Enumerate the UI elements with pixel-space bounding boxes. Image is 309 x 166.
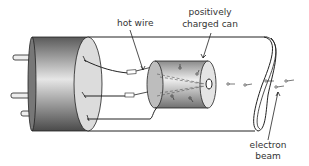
base-cylinder (28, 37, 102, 131)
label-electron-beam-line1: electron (250, 140, 287, 150)
positively-charged-can (147, 61, 216, 108)
electron-gun-diagram: hot wire positively charged can electron… (0, 0, 309, 166)
electron-beam (227, 80, 294, 88)
label-can-line1: positively (188, 7, 232, 17)
label-can-line2: charged can (182, 19, 238, 29)
label-hot-wire: hot wire (117, 18, 154, 28)
label-electron-beam-line2: beam (255, 151, 281, 161)
